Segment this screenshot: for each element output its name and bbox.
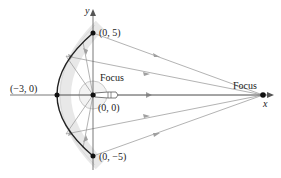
label-bottom-point: (0, −5) [99,152,126,162]
label-origin-point: (0, 0) [98,103,120,113]
point-top [91,31,96,36]
point-vertex [55,93,60,98]
x-axis-label: x [263,99,267,109]
x-axis-arrow-icon [267,92,274,98]
y-axis-label: y [85,6,89,16]
label-outer-focus: Focus [233,81,257,91]
label-vertex-point: (−3, 0) [10,84,37,94]
point-origin [91,93,96,98]
point-bottom [91,154,96,159]
label-inner-focus: Focus [100,73,124,83]
bulb-icon [95,92,118,98]
y-axis-arrow-icon [90,9,96,16]
label-top-point: (0, 5) [99,28,121,38]
point-focus [260,92,266,98]
